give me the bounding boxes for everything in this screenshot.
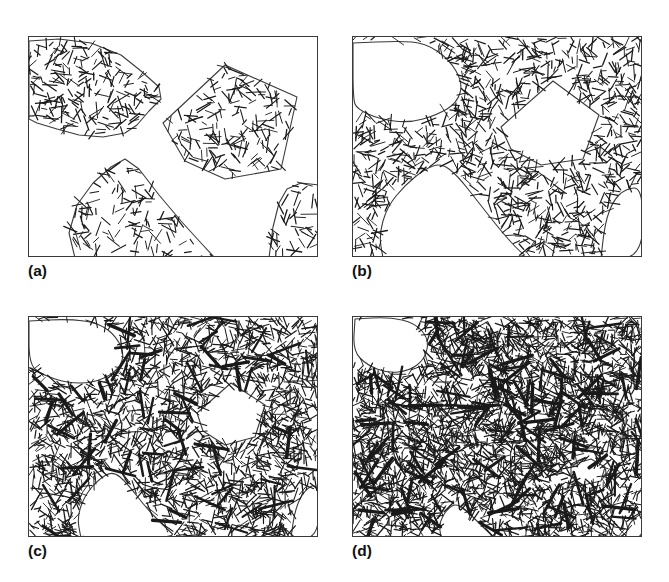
panel-c-canvas (29, 317, 318, 537)
panel-b-frame (352, 36, 642, 257)
panel-b-canvas (353, 37, 642, 257)
panel-a-frame (28, 36, 318, 257)
fiber-layer (353, 317, 642, 537)
fiber-layer (29, 37, 318, 257)
panel-c-frame (28, 316, 318, 537)
region-outlines (29, 39, 318, 257)
fiber-layer (353, 37, 642, 257)
fiber-layer (29, 317, 318, 537)
panel-a-canvas (29, 37, 318, 257)
panel-d-frame (352, 316, 642, 537)
panel-d-canvas (353, 317, 642, 537)
figure-container: (a) (b) (c) (d) (0, 0, 669, 582)
